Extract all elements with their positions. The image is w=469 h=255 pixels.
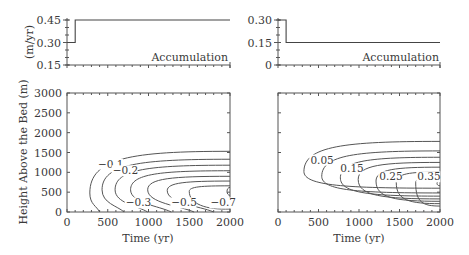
contour-right-x-tick-label: 0 bbox=[275, 216, 282, 229]
accum-left-y-tick-label: 0.45 bbox=[37, 14, 62, 27]
accum-left-accumulation-line bbox=[67, 20, 230, 43]
figure: (m/yr) Accumulation 0.150.300.45 Accumul… bbox=[0, 0, 469, 255]
contour-right-x-tick-label: 500 bbox=[308, 216, 329, 229]
accum-right-panel-label: Accumulation bbox=[361, 51, 439, 64]
accum-right-y-tick-label: 0.15 bbox=[248, 37, 273, 50]
contour-left-y-tick-label: 500 bbox=[41, 186, 62, 199]
accum-left-y-tick-label: 0.30 bbox=[37, 37, 62, 50]
contour-left-x-tick-label: 1000 bbox=[135, 216, 163, 229]
accum-right-y-tick-label: 0 bbox=[265, 59, 272, 72]
accum-left-ylabel: (m/yr) bbox=[23, 25, 36, 59]
contour-left-y-tick-label: 1500 bbox=[34, 147, 62, 160]
contour-right-x-tick-label: 1000 bbox=[345, 216, 373, 229]
contour-left-y-tick-label: 1000 bbox=[34, 166, 62, 179]
contour-right-x-tick-label: 2000 bbox=[426, 216, 454, 229]
contour-right-x-tick-label: 1500 bbox=[386, 216, 414, 229]
contour-label: 0.35 bbox=[417, 170, 440, 182]
accum-right-accumulation-line bbox=[278, 20, 440, 43]
contour-left-x-tick-label: 0 bbox=[64, 216, 71, 229]
contour-right-xlabel: Time (yr) bbox=[333, 232, 384, 245]
contour-left-y-tick-label: 2500 bbox=[34, 107, 62, 120]
contour-label: 0.05 bbox=[310, 154, 333, 166]
contour-left-x-tick-label: 500 bbox=[97, 216, 118, 229]
accumulation-panel-right: Accumulation 00.150.30 bbox=[248, 14, 441, 72]
contour-panel-left: Height Above the Bed (m) Time (yr) 05001… bbox=[17, 79, 244, 245]
accum-left-panel-label: Accumulation bbox=[150, 51, 228, 64]
contour-left-y-tick-label: 3000 bbox=[34, 87, 62, 100]
accum-left-y-tick-label: 0.15 bbox=[37, 59, 62, 72]
contour-label: −0.5 bbox=[171, 196, 197, 208]
contour-panel-right: Time (yr) 05001000150020000.050.150.250.… bbox=[275, 93, 455, 245]
contour-label: −0.7 bbox=[210, 196, 236, 208]
contour-label: 0.15 bbox=[340, 162, 363, 174]
accumulation-panel-left: (m/yr) Accumulation 0.150.300.45 bbox=[23, 14, 230, 72]
contour-left-y-tick-label: 0 bbox=[55, 206, 62, 219]
contour-left-ylabel: Height Above the Bed (m) bbox=[17, 79, 30, 224]
contour-label: −0.2 bbox=[113, 164, 139, 176]
contour-label: 0.25 bbox=[379, 170, 402, 182]
contour-left-x-tick-label: 1500 bbox=[175, 216, 203, 229]
contour-left-x-tick-label: 2000 bbox=[216, 216, 244, 229]
contour-label: −0.3 bbox=[126, 196, 151, 208]
contour-left-y-tick-label: 2000 bbox=[34, 127, 62, 140]
contour-left-xlabel: Time (yr) bbox=[122, 232, 173, 245]
contour-right-frame bbox=[278, 93, 440, 212]
accum-right-y-tick-label: 0.30 bbox=[248, 14, 273, 27]
